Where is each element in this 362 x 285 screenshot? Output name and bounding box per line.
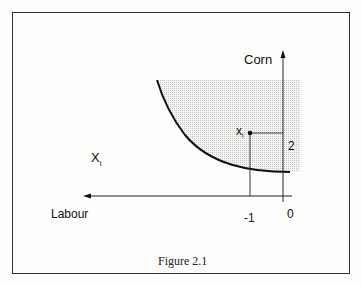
y-axis-label: Corn [244, 52, 272, 67]
y-axis-arrow [281, 50, 286, 58]
production-set-diagram [0, 0, 362, 285]
tick-x-minus1: -1 [244, 211, 255, 225]
origin-label: 0 [287, 207, 294, 221]
x-axis-arrow [83, 194, 91, 199]
figure-caption: Figure 2.1 [158, 254, 207, 269]
x-axis-label: Labour [51, 207, 88, 221]
set-label: Xi [91, 150, 101, 168]
point-xi [248, 131, 253, 136]
tick-y-2: 2 [288, 139, 295, 153]
point-label: xi [236, 124, 244, 139]
